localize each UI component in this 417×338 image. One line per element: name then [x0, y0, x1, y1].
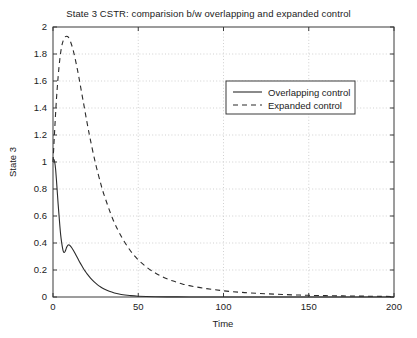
- y-tick-label: 1.2: [34, 129, 47, 140]
- y-tick-label: 0.8: [34, 183, 47, 194]
- y-tick-label: 1.4: [34, 102, 47, 113]
- y-tick-label: 0.2: [34, 264, 47, 275]
- y-axis-title: State 3: [7, 147, 18, 177]
- x-tick-label: 150: [301, 301, 317, 312]
- x-axis-title: Time: [213, 318, 234, 329]
- series-line-solid: [53, 159, 394, 297]
- y-tick-label: 0.6: [34, 210, 47, 221]
- y-tick-label: 1: [42, 156, 47, 167]
- y-axis-tick-labels: 00.20.40.60.811.21.41.61.82: [34, 21, 47, 302]
- chart-figure: State 3 CSTR: comparision b/w overlappin…: [0, 0, 417, 338]
- x-tick-label: 50: [133, 301, 144, 312]
- plot-canvas: 050100150200 00.20.40.60.811.21.41.61.82…: [0, 0, 417, 338]
- y-tick-label: 0: [42, 291, 47, 302]
- x-tick-label: 200: [386, 301, 402, 312]
- y-tick-label: 1.6: [34, 75, 47, 86]
- x-axis-tick-labels: 050100150200: [50, 301, 402, 312]
- grid-lines: [53, 27, 394, 297]
- y-tick-label: 2: [42, 21, 47, 32]
- x-tick-label: 0: [50, 301, 55, 312]
- legend-label-expanded: Expanded control: [268, 100, 342, 111]
- chart-legend[interactable]: Overlapping control Expanded control: [226, 81, 355, 114]
- y-tick-label: 0.4: [34, 237, 47, 248]
- x-tick-label: 100: [216, 301, 232, 312]
- legend-label-overlapping: Overlapping control: [268, 87, 350, 98]
- y-tick-label: 1.8: [34, 48, 47, 59]
